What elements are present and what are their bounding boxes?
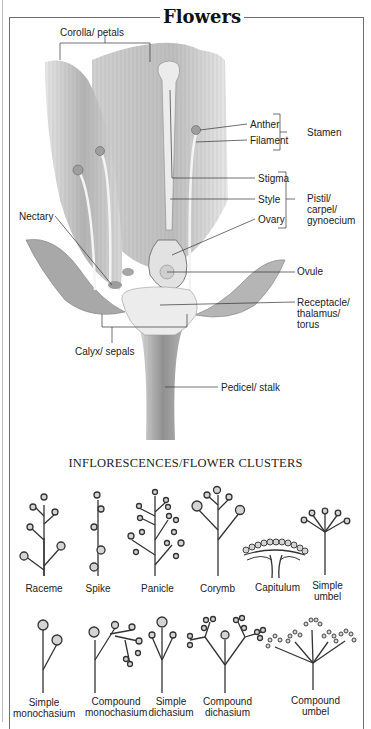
label-ovule: Ovule: [297, 266, 323, 277]
label-pistil-3: gynoecium: [307, 215, 355, 226]
label-receptacle-1: Receptacle/: [297, 297, 350, 308]
compound-dichasium-drawing: [188, 616, 266, 694]
label-style: Style: [258, 194, 280, 205]
label-filament: Filament: [250, 135, 288, 146]
label-pistil-1: Pistil/: [307, 193, 331, 204]
caption-simple-monochasium: Simplemonochasium: [13, 697, 75, 719]
simple-umbel-drawing: [301, 508, 350, 575]
panicle-drawing: [128, 490, 184, 577]
caption-compound-dichasium: Compounddichasium: [200, 696, 255, 718]
anther-left-2: [96, 147, 105, 156]
simple-monochasium-drawing: [38, 620, 62, 693]
label-receptacle-2: thalamus/: [297, 308, 340, 319]
anther-right: [192, 126, 201, 135]
caption-raceme: Raceme: [19, 583, 69, 594]
caption-simple-umbel: Simpleumbel: [305, 580, 350, 602]
caption-panicle: Panicle: [135, 583, 180, 594]
caption-compound-umbel: Compoundumbel: [288, 695, 343, 717]
label-stamen: Stamen: [307, 127, 341, 138]
corymb-drawing: [192, 487, 245, 577]
right-sepal-shape: [195, 260, 285, 317]
inflorescence-row-2: [38, 616, 356, 694]
caption-simple-dichasium: Simpledichasium: [148, 696, 194, 718]
inflorescence-row-1: [20, 487, 350, 579]
caption-spike: Spike: [78, 583, 118, 594]
anther-left-1: [73, 165, 83, 175]
inflorescences-heading: INFLORESCENCES/FLOWER CLUSTERS: [0, 456, 371, 471]
label-stigma: Stigma: [258, 173, 289, 184]
receptacle-shape: [122, 287, 197, 335]
raceme-drawing: [20, 494, 65, 576]
label-corolla: Corolla/ petals: [60, 27, 124, 38]
capitulum-drawing: [243, 539, 308, 578]
caption-capitulum: Capitulum: [250, 582, 305, 593]
caption-corymb: Corymb: [195, 583, 240, 594]
label-nectary: Nectary: [19, 211, 53, 222]
compound-monochasium-drawing: [89, 622, 142, 694]
label-ovary: Ovary: [258, 214, 285, 225]
label-calyx: Calyx/ sepals: [75, 346, 134, 357]
simple-dichasium-drawing: [149, 617, 176, 693]
label-pedicel: Pedicel/ stalk: [221, 382, 280, 393]
spike-drawing: [90, 492, 105, 576]
label-pistil-2: carpel/: [307, 204, 337, 215]
caption-compound-monochasium: Compoundmonochasium: [85, 696, 147, 718]
compound-umbel-drawing: [266, 618, 356, 690]
label-anther: Anther: [250, 119, 279, 130]
label-receptacle-3: torus: [297, 319, 319, 330]
